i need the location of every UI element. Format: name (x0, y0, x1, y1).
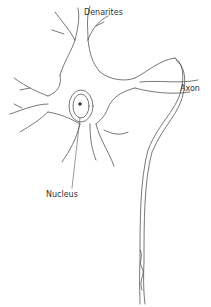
label-nucleus: Nucleus (46, 190, 78, 199)
neuron-illustration (0, 0, 211, 307)
axon-path (140, 58, 183, 304)
label-axon: Axon (180, 84, 200, 93)
neuron-diagram: Denarites Axon Nucleus (0, 0, 211, 307)
label-dendrites: Denarites (84, 8, 123, 17)
cell-body (48, 40, 135, 124)
